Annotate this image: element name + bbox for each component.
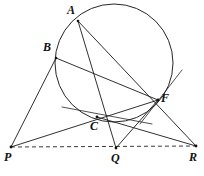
vertex-dot-C bbox=[96, 116, 99, 119]
vertex-dot-Q bbox=[115, 147, 118, 150]
point-label-B: B bbox=[43, 41, 51, 53]
vertex-dot-R bbox=[195, 145, 198, 148]
vertex-dot-P bbox=[10, 146, 13, 149]
segment-C-R bbox=[97, 117, 196, 146]
point-label-F: F bbox=[161, 92, 169, 104]
point-label-C: C bbox=[90, 120, 98, 132]
point-label-P: P bbox=[4, 151, 11, 163]
geometry-figure: A B F C P Q R bbox=[0, 0, 204, 176]
figure-canvas bbox=[0, 0, 204, 176]
point-label-A: A bbox=[67, 4, 75, 16]
segment-B-F bbox=[56, 58, 158, 100]
point-label-Q: Q bbox=[111, 152, 120, 164]
vertex-dot-A bbox=[77, 20, 80, 23]
vertex-dot-B bbox=[55, 57, 58, 60]
segment-P-F bbox=[11, 100, 158, 147]
vertex-dot-F bbox=[157, 99, 160, 102]
segment-B-P bbox=[11, 58, 56, 147]
point-label-R: R bbox=[189, 151, 197, 163]
segment-P-R-baseline bbox=[11, 146, 196, 147]
